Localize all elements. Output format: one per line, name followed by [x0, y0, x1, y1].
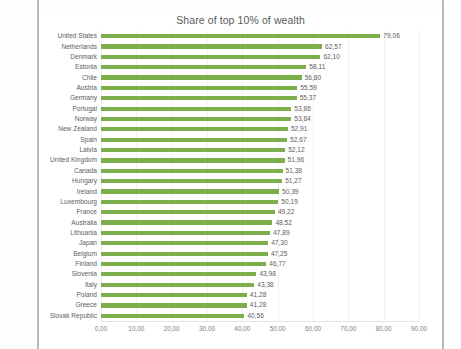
bar[interactable] [101, 107, 291, 111]
bar-row[interactable]: Japan47,30 [101, 239, 419, 247]
bar[interactable] [101, 262, 266, 266]
bar-value-label: 79,06 [380, 32, 400, 40]
category-label: United States [57, 32, 97, 40]
bar[interactable] [101, 158, 285, 162]
bar-row[interactable]: United States79,06 [101, 32, 419, 40]
bar-value-label: 49,22 [275, 208, 295, 216]
category-label: Hungary [72, 177, 97, 185]
bar[interactable] [101, 148, 285, 152]
bar-row[interactable]: Denmark62,10 [101, 53, 419, 61]
bar[interactable] [101, 75, 302, 79]
bar-value-label: 62,57 [322, 43, 342, 51]
bar[interactable] [101, 241, 268, 245]
x-tick-label: 0,00 [95, 325, 107, 332]
bar-row[interactable]: Germany55,37 [101, 94, 419, 102]
bar-value-label: 55,59 [297, 84, 317, 92]
bar-value-label: 47,30 [268, 239, 288, 247]
bar-value-label: 41,28 [247, 301, 267, 309]
bar-value-label: 43,38 [254, 281, 274, 289]
x-tick-label: 90,00 [411, 325, 427, 332]
bar[interactable] [101, 220, 272, 224]
category-label: Norway [75, 115, 97, 123]
category-label: Finland [75, 260, 97, 268]
bar[interactable] [101, 210, 275, 214]
bar-row[interactable]: Slovenia43,98 [101, 270, 419, 278]
bar[interactable] [101, 117, 291, 121]
bar-row[interactable]: Portugal53,86 [101, 105, 419, 113]
bar-value-label: 51,96 [285, 156, 305, 164]
bar-row[interactable]: Poland41,28 [101, 291, 419, 299]
bar-row[interactable]: Italy43,38 [101, 281, 419, 289]
bar[interactable] [101, 303, 247, 307]
bar-row[interactable]: Austria55,59 [101, 84, 419, 92]
category-label: Portugal [72, 105, 97, 113]
bar-value-label: 47,25 [268, 250, 288, 258]
bar[interactable] [101, 231, 270, 235]
bar-value-label: 55,37 [297, 94, 317, 102]
bar[interactable] [101, 34, 380, 38]
category-label: Italy [85, 281, 97, 289]
bar[interactable] [101, 200, 278, 204]
bar-row[interactable]: Chile56,80 [101, 73, 419, 81]
category-label: Japan [79, 239, 97, 247]
bar-row[interactable]: Ireland50,39 [101, 187, 419, 195]
x-tick-label: 20,00 [164, 325, 180, 332]
bar-row[interactable]: Belgium47,25 [101, 250, 419, 258]
category-label: Denmark [70, 53, 97, 61]
bar-row[interactable]: Spain52,67 [101, 136, 419, 144]
bar[interactable] [101, 127, 288, 131]
category-label: Belgium [73, 250, 97, 258]
bar-row[interactable]: France49,22 [101, 208, 419, 216]
category-label: Austria [76, 84, 97, 92]
category-label: Estonia [75, 63, 97, 71]
bar[interactable] [101, 44, 322, 48]
bar-row[interactable]: Netherlands62,57 [101, 42, 419, 50]
bar-row[interactable]: Australia48,52 [101, 218, 419, 226]
bar-row[interactable]: Greece41,28 [101, 301, 419, 309]
bar-value-label: 48,52 [272, 219, 292, 227]
bar-row[interactable]: Hungary51,27 [101, 177, 419, 185]
bar-row[interactable]: New Zealand52,91 [101, 125, 419, 133]
bar-row[interactable]: Canada51,38 [101, 167, 419, 175]
bar[interactable] [101, 272, 256, 276]
cut-off-toolbar-strip [0, 0, 461, 9]
bar-row[interactable]: Slovak Republic40,56 [101, 312, 419, 320]
bar-value-label: 46,77 [266, 260, 286, 268]
bar-value-label: 40,56 [244, 312, 264, 320]
x-tick-label: 30,00 [199, 325, 215, 332]
category-label: Luxembourg [60, 198, 97, 206]
bar-value-label: 51,38 [283, 167, 303, 175]
category-label: New Zealand [58, 125, 97, 133]
bar[interactable] [101, 189, 279, 193]
category-label: Chile [82, 74, 97, 82]
plot-area: United States79,06Netherlands62,57Denmar… [101, 31, 419, 321]
bar[interactable] [101, 252, 268, 256]
category-label: Poland [76, 291, 97, 299]
chart-screenshot: Share of top 10% of wealth United States… [0, 0, 461, 349]
bar-row[interactable]: Estonia58,11 [101, 63, 419, 71]
bar-row[interactable]: Lithuania47,89 [101, 229, 419, 237]
bar[interactable] [101, 96, 297, 100]
bar[interactable] [101, 169, 283, 173]
bar-row[interactable]: Luxembourg50,19 [101, 198, 419, 206]
bar-row[interactable]: United Kingdom51,96 [101, 156, 419, 164]
bar[interactable] [101, 314, 244, 318]
bar[interactable] [101, 86, 297, 90]
bar[interactable] [101, 138, 287, 142]
bar[interactable] [101, 65, 306, 69]
x-tick-label: 50,00 [270, 325, 286, 332]
category-label: Lithuania [70, 229, 97, 237]
category-label: Spain [80, 136, 97, 144]
bar[interactable] [101, 293, 247, 297]
bar-value-label: 52,91 [288, 125, 308, 133]
bar[interactable] [101, 179, 282, 183]
bar[interactable] [101, 283, 254, 287]
bar-value-label: 53,84 [291, 115, 311, 123]
bar-value-label: 50,19 [278, 198, 298, 206]
x-tick-label: 80,00 [376, 325, 392, 332]
bar-row[interactable]: Latvia52,12 [101, 146, 419, 154]
bar-row[interactable]: Finland46,77 [101, 260, 419, 268]
category-label: France [76, 208, 97, 216]
bar[interactable] [101, 55, 320, 59]
bar-row[interactable]: Norway53,84 [101, 115, 419, 123]
